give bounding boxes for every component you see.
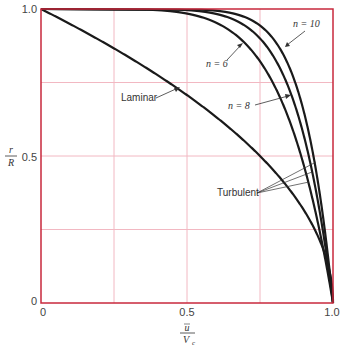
- x-axis-label: u V c: [180, 322, 196, 346]
- x-tick-0: 0: [40, 306, 46, 318]
- turbulent-label: Turbulent: [217, 187, 259, 198]
- laminar-label: Laminar: [121, 92, 158, 103]
- svg-text:V: V: [183, 334, 191, 345]
- n6-label: n = 6: [206, 58, 228, 69]
- svg-text:r: r: [9, 144, 13, 155]
- svg-text:u: u: [185, 322, 190, 333]
- y-tick-05: 0.5: [22, 151, 37, 163]
- grid-lines: [41, 9, 333, 303]
- y-tick-0: 0: [31, 295, 37, 307]
- n8-arrowhead: [285, 94, 291, 99]
- velocity-profile-chart: 1.0 0.5 0 0 0.5 1.0 r R u V c Laminar n …: [0, 0, 348, 346]
- y-tick-1: 1.0: [22, 3, 37, 15]
- n10-arrow: [287, 31, 305, 45]
- svg-text:c: c: [192, 339, 196, 346]
- n6-arrowhead: [237, 43, 243, 48]
- x-tick-05: 0.5: [179, 306, 194, 318]
- svg-text:R: R: [7, 157, 14, 168]
- y-axis-label: r R: [5, 144, 17, 168]
- laminar-arrow: [156, 88, 178, 98]
- n8-label: n = 8: [228, 100, 250, 111]
- n10-label: n = 10: [293, 18, 320, 29]
- n6-arrow: [227, 45, 241, 60]
- x-tick-1: 1.0: [324, 306, 339, 318]
